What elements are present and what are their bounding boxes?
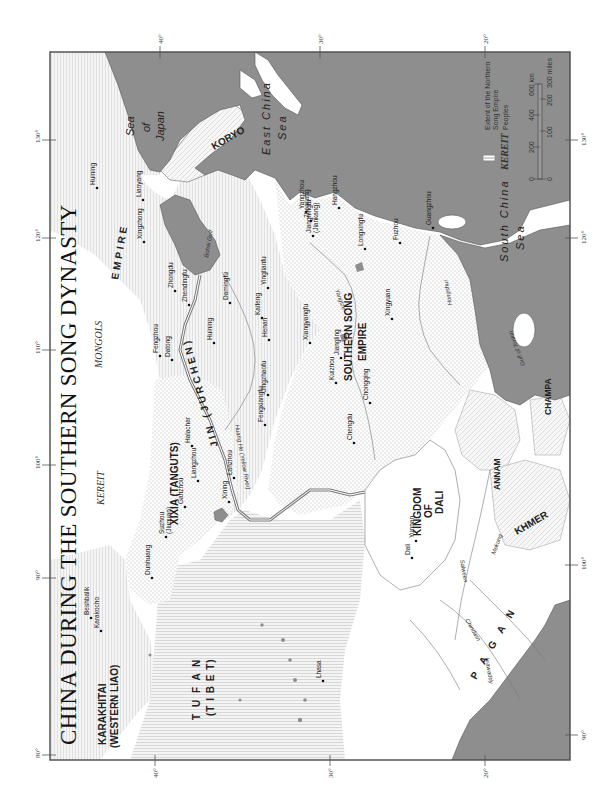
city-dot-icon <box>264 424 267 427</box>
svg-text:200: 200 <box>546 94 553 106</box>
svg-text:of: of <box>140 122 152 132</box>
svg-text:KEREIT: KEREIT <box>95 470 106 506</box>
city-label: Halachar <box>184 416 191 443</box>
city-label: Liaoyang <box>135 170 143 197</box>
city-dot-icon <box>229 302 232 305</box>
svg-text:KARAKHITAI: KARAKHITAI <box>97 683 108 745</box>
svg-text:90°: 90° <box>34 570 42 580</box>
city-dot-icon <box>142 199 145 202</box>
svg-text:0: 0 <box>546 177 553 181</box>
svg-text:Sea: Sea <box>124 116 136 136</box>
city-dot-icon <box>143 241 146 244</box>
svg-text:120°: 120° <box>34 229 42 243</box>
svg-text:ANNAM: ANNAM <box>492 458 502 490</box>
city-label: Zhendingfu <box>181 269 189 302</box>
svg-text:100: 100 <box>546 126 553 138</box>
city-dot-icon <box>309 342 312 345</box>
city-label: Zhongdu <box>167 262 175 288</box>
svg-text:(WESTERN LIAO): (WESTERN LIAO) <box>109 665 120 748</box>
city-label: Lhasa <box>315 660 322 678</box>
city-label: Huining <box>89 163 97 185</box>
city-dot-icon <box>197 480 200 483</box>
svg-text:130°: 130° <box>580 133 588 147</box>
city-label: Fengzhou <box>152 324 160 353</box>
svg-text:KEREIT: KEREIT <box>499 132 510 171</box>
city-label: Dali <box>404 544 411 555</box>
city-dot-icon <box>353 442 356 445</box>
city-label: Chengdu <box>346 413 354 440</box>
city-label: Xining <box>221 481 229 499</box>
svg-text:T U F A N: T U F A N <box>191 658 202 720</box>
svg-text:300 miles: 300 miles <box>546 58 553 88</box>
svg-text:200: 200 <box>528 141 535 153</box>
city-label: Fengxiangfu <box>257 386 265 422</box>
city-dot-icon <box>151 577 154 580</box>
city-dot-icon <box>312 235 315 238</box>
svg-text:400: 400 <box>528 109 535 121</box>
city-dot-icon <box>267 287 270 290</box>
svg-text:Extent of the Northern: Extent of the Northern <box>484 61 491 130</box>
svg-text:110°: 110° <box>34 341 42 354</box>
svg-text:South China: South China <box>498 179 510 262</box>
city-dot-icon <box>228 501 231 504</box>
city-sublabel: (Jiankang) <box>312 203 320 233</box>
city-dot-icon <box>335 382 338 385</box>
city-dot-icon <box>159 355 162 358</box>
city-label: Henan <box>261 317 268 337</box>
city-label: Hangzhou <box>331 175 339 205</box>
city-label: Datong <box>164 336 172 357</box>
city-label: Dunhuang <box>144 545 152 575</box>
taiwan-island <box>438 215 466 229</box>
city-dot-icon <box>165 536 168 539</box>
city-dot-icon <box>411 557 414 560</box>
svg-text:Peoples: Peoples <box>502 104 510 130</box>
svg-text:600 km: 600 km <box>528 73 535 96</box>
city-dot-icon <box>171 359 174 362</box>
svg-text:DALI: DALI <box>434 490 445 514</box>
city-label: Fuzhou <box>392 218 399 240</box>
city-dot-icon <box>322 680 325 683</box>
city-dot-icon <box>364 248 367 251</box>
city-dot-icon <box>340 357 343 360</box>
city-dot-icon <box>213 342 216 345</box>
svg-text:100°: 100° <box>580 557 588 571</box>
svg-text:OF: OF <box>423 504 434 518</box>
city-dot-icon <box>369 402 372 405</box>
city-dot-icon <box>100 630 103 633</box>
city-label: Jiangling <box>333 329 341 355</box>
city-label: Chongqing <box>362 368 370 400</box>
city-label: Karakocho <box>93 597 100 628</box>
svg-text:Japan: Japan <box>154 111 166 142</box>
city-dot-icon <box>174 290 177 293</box>
city-label: Guangzhou <box>425 191 433 225</box>
city-label: Kuizhou <box>328 356 335 380</box>
city-dot-icon <box>90 617 93 620</box>
svg-text:130°: 130° <box>34 130 42 144</box>
svg-text:0: 0 <box>528 177 535 181</box>
city-dot-icon <box>191 445 194 448</box>
svg-text:40°: 40° <box>157 34 165 44</box>
city-dot-icon <box>233 477 236 480</box>
city-dot-icon <box>415 540 418 543</box>
city-dot-icon <box>268 339 271 342</box>
svg-text:120°: 120° <box>580 231 588 245</box>
city-label: Huining <box>206 318 214 340</box>
city-label: Ganzhou <box>177 477 184 504</box>
svg-text:EMPIRE: EMPIRE <box>357 322 368 361</box>
svg-text:20°: 20° <box>482 34 490 44</box>
city-label: Xingzhong <box>136 208 144 239</box>
city-dot-icon <box>267 394 270 397</box>
map-title: CHINA DURING THE SOUTHERN SONG DYNASTY <box>56 204 81 745</box>
city-dot-icon <box>338 207 341 210</box>
city-label: Xingyuan <box>384 289 392 316</box>
city-label: Lanzhou <box>226 450 233 475</box>
svg-text:40°: 40° <box>152 768 160 778</box>
svg-text:90°: 90° <box>580 730 588 740</box>
svg-text:30°: 30° <box>317 34 325 44</box>
city-label: Xiangyangfu <box>302 303 310 340</box>
city-label: Yunnan <box>408 516 415 538</box>
svg-text:20°: 20° <box>482 768 490 778</box>
city-dot-icon <box>96 187 99 190</box>
svg-text:East China: East China <box>260 81 272 155</box>
city-label: Yingtianfu <box>260 256 268 285</box>
